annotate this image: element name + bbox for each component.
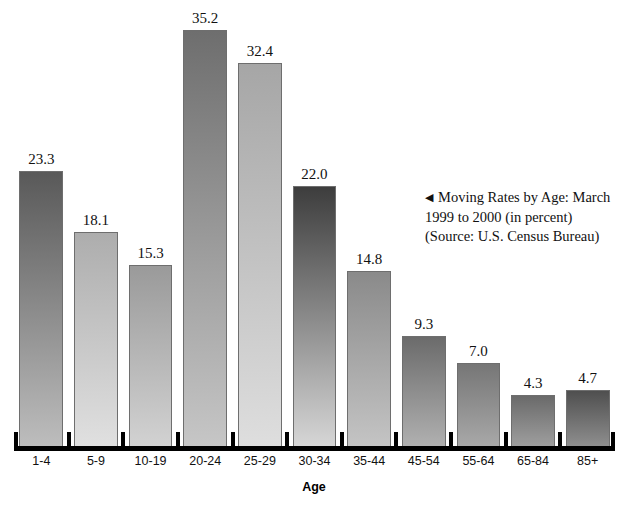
bar-30-34: 22.0 [293, 186, 337, 446]
bar-value-label: 4.7 [578, 371, 597, 386]
bar-25-29: 32.4 [238, 63, 282, 446]
bar-rect [19, 171, 63, 446]
bar-10-19: 15.3 [129, 265, 173, 446]
bar-45-54: 9.3 [402, 336, 446, 446]
x-axis-baseline [14, 446, 615, 451]
x-axis-title: Age [0, 481, 628, 494]
axis-tick [67, 432, 71, 446]
axis-tick [611, 432, 615, 446]
bar-rect [511, 395, 555, 446]
bar-value-label: 4.3 [524, 376, 543, 391]
bar-85+: 4.7 [566, 390, 610, 446]
tick-label-30-34: 30-34 [299, 455, 331, 468]
tick-label-20-24: 20-24 [189, 455, 221, 468]
bar-chart: 23.318.115.335.232.422.014.89.37.04.34.7… [0, 0, 628, 508]
chart-caption: ◀Moving Rates by Age: March 1999 to 2000… [425, 188, 625, 247]
axis-tick [504, 432, 508, 446]
bar-rect [129, 265, 173, 446]
caption-line-2: 1999 to 2000 (in percent) [425, 209, 572, 225]
axis-tick [285, 432, 289, 446]
bar-20-24: 35.2 [183, 30, 227, 446]
bar-value-label: 15.3 [137, 246, 163, 261]
bar-65-84: 4.3 [511, 395, 555, 446]
bar-value-label: 23.3 [28, 152, 54, 167]
bar-value-label: 7.0 [469, 344, 488, 359]
axis-tick [14, 432, 18, 446]
bar-35-44: 14.8 [347, 271, 391, 446]
tick-label-25-29: 25-29 [244, 455, 276, 468]
bar-rect [183, 30, 227, 446]
tick-label-45-54: 45-54 [408, 455, 440, 468]
bar-rect [293, 186, 337, 446]
bar-1-4: 23.3 [19, 171, 63, 446]
axis-tick [449, 432, 453, 446]
bar-value-label: 18.1 [83, 213, 109, 228]
axis-tick [340, 432, 344, 446]
bar-value-label: 35.2 [192, 11, 218, 26]
bar-rect [457, 363, 501, 446]
bar-5-9: 18.1 [74, 232, 118, 446]
bar-rect [238, 63, 282, 446]
tick-label-55-64: 55-64 [462, 455, 494, 468]
axis-tick [176, 432, 180, 446]
left-triangle-icon: ◀ [425, 190, 433, 205]
axis-tick [121, 432, 125, 446]
tick-label-85+: 85+ [577, 455, 598, 468]
caption-line-3: (Source: U.S. Census Bureau) [425, 228, 599, 244]
bar-55-64: 7.0 [457, 363, 501, 446]
bar-value-label: 9.3 [414, 317, 433, 332]
tick-label-5-9: 5-9 [87, 455, 105, 468]
tick-label-1-4: 1-4 [32, 455, 50, 468]
tick-label-65-84: 65-84 [517, 455, 549, 468]
tick-label-35-44: 35-44 [353, 455, 385, 468]
caption-line-1: Moving Rates by Age: March [438, 189, 610, 205]
bar-value-label: 14.8 [356, 252, 382, 267]
bar-rect [347, 271, 391, 446]
bar-rect [566, 390, 610, 446]
axis-tick [394, 432, 398, 446]
bar-value-label: 32.4 [247, 44, 273, 59]
bar-rect [402, 336, 446, 446]
axis-tick [231, 432, 235, 446]
axis-tick [558, 432, 562, 446]
tick-label-10-19: 10-19 [135, 455, 167, 468]
bar-rect [74, 232, 118, 446]
bar-value-label: 22.0 [301, 167, 327, 182]
